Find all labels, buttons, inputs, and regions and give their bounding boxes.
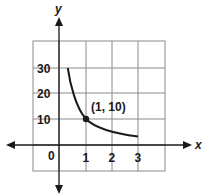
x-axis-right-arrow-icon [183,141,192,149]
y-tick-30: 30 [37,62,51,76]
origin-label: 0 [48,149,55,163]
x-axis-label: x [194,138,203,152]
y-tick-20: 20 [37,87,51,101]
y-axis-label: y [54,2,63,16]
y-axis [55,17,63,194]
point-label: (1, 10) [91,100,126,114]
x-axis [6,141,192,149]
y-tick-10: 10 [37,113,51,127]
point-marker [83,116,89,122]
x-tick-2: 2 [109,151,116,165]
x-tick-1: 1 [83,151,90,165]
x-tick-3: 3 [135,151,142,165]
graph-canvas: (1, 10) 30 20 10 0 1 2 3 x y [0,0,204,195]
x-axis-left-arrow-icon [6,141,15,149]
y-axis-down-arrow-icon [55,185,63,194]
y-axis-up-arrow-icon [55,17,63,26]
